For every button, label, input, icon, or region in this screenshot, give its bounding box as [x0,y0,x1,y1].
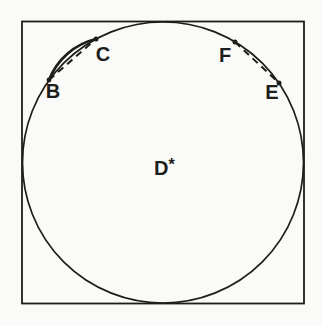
scanned-geometry-figure: B C F E D* [0,0,323,326]
label-center-d-star: D* [154,156,175,179]
chord-fe-dashed [235,42,279,83]
label-center-superscript: * [168,156,175,173]
point-f-marker [233,40,238,45]
label-point-e: E [265,81,278,103]
chord-bc-dashed [49,39,96,80]
point-c-marker [94,37,99,42]
diagram-canvas: B C F E D* [0,0,323,326]
label-center-base: D [154,157,168,179]
label-point-c: C [96,43,110,65]
label-point-b: B [46,80,60,102]
label-point-f: F [219,44,231,66]
